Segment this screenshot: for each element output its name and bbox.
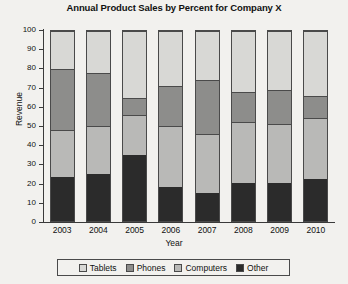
bar-segment-phones[interactable]: [196, 80, 219, 133]
y-axis-tick: [39, 222, 44, 223]
bar-2009[interactable]: [267, 30, 292, 222]
y-axis-tick-label: 30: [14, 160, 36, 168]
y-axis-tick-label: 90: [14, 45, 36, 53]
x-axis-tick-label: 2008: [225, 225, 261, 235]
y-axis-tick-label: 70: [14, 84, 36, 92]
legend-swatch-icon: [126, 264, 134, 272]
x-axis-tick-label: 2003: [44, 225, 80, 235]
y-axis-tick: [39, 126, 44, 127]
x-axis-tick-label: 2005: [117, 225, 153, 235]
bar-segment-tablets[interactable]: [159, 31, 182, 86]
y-axis-tick-label: 0: [14, 218, 36, 226]
y-axis-tick-label: 20: [14, 180, 36, 188]
y-axis-tick-label: 80: [14, 64, 36, 72]
legend-label: Other: [247, 263, 268, 273]
x-axis-tick-label: 2007: [189, 225, 225, 235]
bar-segment-phones[interactable]: [159, 86, 182, 126]
legend-swatch-icon: [79, 264, 87, 272]
legend-item-tablets[interactable]: Tablets: [79, 263, 117, 273]
y-axis-tick: [39, 30, 44, 31]
x-axis-tick-label: 2009: [262, 225, 298, 235]
x-axis-tick-label: 2010: [298, 225, 334, 235]
chart-legend: TabletsPhonesComputersOther: [57, 259, 290, 276]
bar-segment-computers[interactable]: [232, 122, 255, 183]
y-axis-tick-label: 100: [14, 26, 36, 34]
bar-segment-phones[interactable]: [123, 98, 146, 115]
legend-label: Computers: [185, 263, 227, 273]
x-axis-tick-label: 2006: [153, 225, 189, 235]
bar-segment-tablets[interactable]: [304, 31, 327, 96]
bar-segment-tablets[interactable]: [51, 31, 74, 69]
bar-segment-computers[interactable]: [159, 126, 182, 187]
bar-segment-other[interactable]: [268, 183, 291, 221]
chart-title: Annual Product Sales by Percent for Comp…: [0, 2, 348, 13]
bar-segment-tablets[interactable]: [268, 31, 291, 90]
y-axis-tick-label: 40: [14, 141, 36, 149]
legend-item-other[interactable]: Other: [236, 263, 268, 273]
bar-segment-tablets[interactable]: [232, 31, 255, 92]
bar-segment-other[interactable]: [51, 177, 74, 221]
bar-2007[interactable]: [195, 30, 220, 222]
bar-segment-phones[interactable]: [304, 96, 327, 119]
y-axis-tick: [39, 203, 44, 204]
bar-segment-phones[interactable]: [232, 92, 255, 122]
bar-2004[interactable]: [86, 30, 111, 222]
plot-area: [44, 30, 334, 222]
bar-segment-phones[interactable]: [87, 73, 110, 126]
bar-segment-other[interactable]: [232, 183, 255, 221]
legend-swatch-icon: [236, 264, 244, 272]
legend-label: Phones: [137, 263, 166, 273]
legend-item-computers[interactable]: Computers: [174, 263, 227, 273]
bar-segment-phones[interactable]: [51, 69, 74, 130]
y-axis-tick: [39, 107, 44, 108]
bar-segment-computers[interactable]: [123, 115, 146, 155]
bar-segment-other[interactable]: [123, 155, 146, 222]
bar-segment-tablets[interactable]: [196, 31, 219, 80]
y-axis-tick: [39, 184, 44, 185]
bar-segment-computers[interactable]: [51, 130, 74, 178]
bar-segment-tablets[interactable]: [87, 31, 110, 73]
legend-swatch-icon: [174, 264, 182, 272]
chart-container: Annual Product Sales by Percent for Comp…: [0, 0, 348, 284]
x-axis-line: [43, 222, 335, 223]
bar-segment-phones[interactable]: [268, 90, 291, 124]
y-axis-tick-label: 60: [14, 103, 36, 111]
bar-segment-computers[interactable]: [87, 126, 110, 174]
bar-segment-other[interactable]: [196, 193, 219, 222]
legend-label: Tablets: [90, 263, 117, 273]
bar-segment-tablets[interactable]: [123, 31, 146, 98]
y-axis-tick-label: 50: [14, 122, 36, 130]
bar-segment-other[interactable]: [87, 174, 110, 222]
y-axis-tick: [39, 164, 44, 165]
y-axis-tick: [39, 49, 44, 50]
bar-2006[interactable]: [158, 30, 183, 222]
bar-segment-computers[interactable]: [196, 134, 219, 193]
bar-2008[interactable]: [231, 30, 256, 222]
legend-item-phones[interactable]: Phones: [126, 263, 166, 273]
bar-segment-other[interactable]: [304, 179, 327, 221]
y-axis-tick: [39, 88, 44, 89]
bar-2003[interactable]: [50, 30, 75, 222]
y-axis-tick-label: 10: [14, 199, 36, 207]
bar-segment-other[interactable]: [159, 187, 182, 221]
bar-2005[interactable]: [122, 30, 147, 222]
bar-segment-computers[interactable]: [304, 118, 327, 179]
y-axis-tick: [39, 145, 44, 146]
bar-segment-computers[interactable]: [268, 124, 291, 183]
x-axis-tick-label: 2004: [80, 225, 116, 235]
x-axis-title: Year: [0, 238, 348, 248]
bar-2010[interactable]: [303, 30, 328, 222]
y-axis-tick: [39, 68, 44, 69]
